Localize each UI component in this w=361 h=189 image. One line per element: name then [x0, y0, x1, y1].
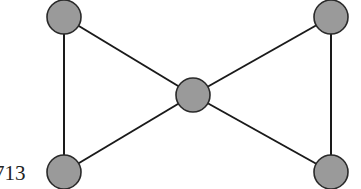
node-center	[176, 78, 210, 112]
edge-top-left-center	[64, 17, 193, 95]
edge-bottom-left-center	[64, 95, 193, 172]
node-top-left	[47, 0, 81, 34]
edge-top-right-center	[193, 17, 331, 95]
graph-svg	[0, 0, 361, 189]
edge-bottom-right-center	[193, 95, 331, 172]
node-bottom-right	[314, 155, 348, 189]
bowtie-graph-diagram: 713	[0, 0, 361, 189]
figure-number-label: 713	[0, 163, 26, 184]
node-top-right	[314, 0, 348, 34]
node-bottom-left	[47, 155, 81, 189]
